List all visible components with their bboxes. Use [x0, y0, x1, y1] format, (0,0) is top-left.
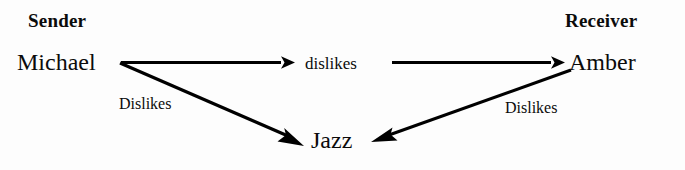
edge-label-amber-to-jazz: Dislikes [505, 100, 557, 116]
node-jazz: Jazz [311, 128, 352, 152]
edge-label-michael-to-jazz: Dislikes [119, 96, 171, 112]
sender-heading: Sender [28, 11, 86, 30]
edge-michael-to-dislikes [121, 56, 295, 69]
edge-dislikes-to-amber [392, 56, 565, 69]
receiver-heading: Receiver [565, 11, 637, 30]
node-dislikes-relation: dislikes [305, 55, 357, 72]
node-michael: Michael [17, 50, 96, 74]
node-amber: Amber [569, 50, 636, 74]
relation-diagram: Sender Receiver Michael dislikes Amber J… [0, 0, 685, 170]
